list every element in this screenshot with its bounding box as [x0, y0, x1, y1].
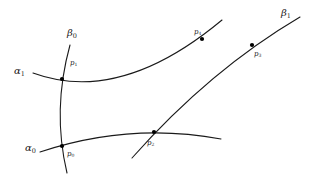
label-p1: p1: [70, 60, 77, 68]
label-p4-sub: 4: [198, 31, 201, 36]
point-p3: [250, 43, 254, 47]
label-beta1: β1: [281, 8, 291, 19]
curves-diagram: [0, 0, 314, 178]
label-p4: p4: [194, 29, 201, 37]
label-alpha1-sub: 1: [21, 70, 25, 78]
label-p1-sub: 1: [74, 62, 77, 67]
label-beta1-sub: 1: [287, 12, 291, 20]
label-alpha0-sub: 0: [32, 147, 36, 155]
label-alpha0-text: α: [25, 142, 32, 153]
label-alpha0: α0: [25, 143, 36, 154]
label-beta0: β0: [67, 28, 77, 39]
label-p0: p0: [67, 151, 74, 159]
label-p3-sub: 3: [258, 53, 261, 58]
label-alpha1-text: α: [14, 65, 21, 76]
label-alpha1: α1: [14, 66, 25, 77]
point-p0: [60, 144, 64, 148]
point-p4: [200, 37, 204, 41]
point-p1: [60, 77, 64, 81]
label-p2-sub: 2: [151, 142, 154, 147]
label-p2: p2: [147, 140, 154, 148]
label-beta0-sub: 0: [73, 32, 77, 40]
label-p3: p3: [254, 51, 261, 59]
curve-beta1: [132, 17, 300, 158]
point-p2: [152, 130, 156, 134]
label-p0-sub: 0: [71, 153, 74, 158]
